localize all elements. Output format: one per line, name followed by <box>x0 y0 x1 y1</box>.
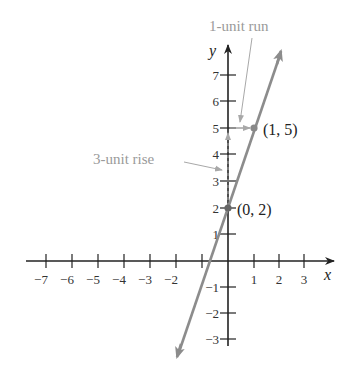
y-tick-label: 2 <box>213 201 220 216</box>
coordinate-plane: −7 −6 −5 −4 −3 −2 1 2 3 7 6 5 4 3 2 1 −1… <box>0 0 347 379</box>
y-tick-label: 4 <box>213 147 220 162</box>
x-tick-label: −3 <box>138 272 152 287</box>
y-tick-label: −3 <box>205 332 219 347</box>
x-axis-label: x <box>323 266 331 283</box>
x-tick-label: 3 <box>301 272 308 287</box>
y-tick-label: −2 <box>205 306 219 321</box>
x-tick-label: −5 <box>86 272 100 287</box>
point-label-0-2: (0, 2) <box>237 201 272 219</box>
y-tick-label: −1 <box>205 280 219 295</box>
y-tick-label: 7 <box>213 68 220 83</box>
point-1-5 <box>250 124 257 131</box>
x-tick-label: −6 <box>60 272 74 287</box>
rise-annotation: 3-unit rise <box>93 151 155 167</box>
x-tick-label: −2 <box>164 272 178 287</box>
y-tick-label: 3 <box>213 174 220 189</box>
x-tick-label: 2 <box>276 272 283 287</box>
y-tick-label: 6 <box>213 94 220 109</box>
x-tick-label: −7 <box>34 272 48 287</box>
x-tick-label: −4 <box>112 272 126 287</box>
point-label-1-5: (1, 5) <box>263 121 298 139</box>
rise-leader-line <box>184 162 222 170</box>
y-tick-label: 5 <box>213 121 220 136</box>
run-leader-line <box>240 38 252 122</box>
x-tick-label: 1 <box>251 272 258 287</box>
run-annotation: 1-unit run <box>209 18 269 34</box>
point-0-2 <box>224 204 231 211</box>
y-axis-label: y <box>207 42 217 60</box>
